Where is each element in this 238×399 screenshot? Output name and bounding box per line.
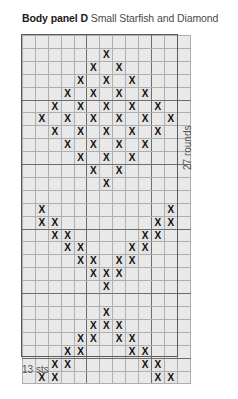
- stitch-mark: X: [152, 230, 164, 242]
- chart-cell: [177, 216, 190, 229]
- stitch-mark: X: [62, 139, 74, 151]
- chart-cell: X: [48, 229, 61, 242]
- stitch-mark: X: [126, 126, 138, 138]
- chart-cell: [74, 371, 87, 384]
- chart-cell: [61, 48, 74, 61]
- chart-cell: [126, 319, 139, 332]
- stitch-mark: X: [36, 204, 48, 216]
- chart-cell: [48, 242, 61, 255]
- chart-cell: X: [61, 139, 74, 152]
- chart-row: XX: [23, 165, 191, 178]
- chart-cell: X: [113, 268, 126, 281]
- chart-cell: [74, 165, 87, 178]
- chart-cell: X: [100, 268, 113, 281]
- stitch-mark: X: [49, 230, 61, 242]
- chart-cell: [164, 61, 177, 74]
- chart-cell: X: [126, 126, 139, 139]
- chart-cell: [126, 358, 139, 371]
- chart-cell: [164, 268, 177, 281]
- knitting-chart-card: Body panel D Small Starfish and Diamond …: [6, 4, 232, 389]
- chart-cell: [61, 268, 74, 281]
- chart-cell: [113, 216, 126, 229]
- chart-cell: X: [113, 319, 126, 332]
- chart-cell: [177, 358, 190, 371]
- chart-cell: [113, 371, 126, 384]
- chart-cell: [139, 190, 152, 203]
- chart-cell: X: [113, 255, 126, 268]
- stitch-mark: X: [75, 126, 87, 138]
- chart-cell: X: [126, 255, 139, 268]
- stitch-mark: X: [49, 372, 61, 384]
- chart-cell: [61, 177, 74, 190]
- chart-cell: [100, 36, 113, 49]
- chart-cell: [23, 319, 36, 332]
- chart-row: XXX: [23, 319, 191, 332]
- chart-cell: [23, 229, 36, 242]
- chart-cell: [151, 281, 164, 294]
- chart-row: XXXX: [23, 332, 191, 345]
- chart-cell: X: [87, 268, 100, 281]
- chart-cell: X: [126, 74, 139, 87]
- chart-cell: [177, 332, 190, 345]
- chart-cell: [87, 216, 100, 229]
- stitch-mark: X: [75, 333, 87, 345]
- stitch-mark: X: [113, 139, 125, 151]
- chart-cell: [23, 268, 36, 281]
- chart-cell: [151, 36, 164, 49]
- stitch-mark: X: [126, 255, 138, 267]
- chart-cell: [151, 74, 164, 87]
- chart-cell: [87, 190, 100, 203]
- chart-cell: [151, 61, 164, 74]
- chart-cell: [74, 319, 87, 332]
- chart-cell: X: [164, 203, 177, 216]
- chart-cell: X: [151, 216, 164, 229]
- chart-cell: [35, 281, 48, 294]
- chart-cell: [35, 61, 48, 74]
- chart-cell: [87, 152, 100, 165]
- chart-cell: [151, 165, 164, 178]
- chart-row: XX: [23, 203, 191, 216]
- chart-cell: [151, 268, 164, 281]
- chart-cell: X: [74, 345, 87, 358]
- stitch-mark: X: [113, 320, 125, 332]
- chart-row: XXXX: [23, 242, 191, 255]
- chart-cell: [23, 332, 36, 345]
- chart-cell: [113, 203, 126, 216]
- chart-cell: [48, 345, 61, 358]
- chart-cell: [61, 165, 74, 178]
- chart-cell: X: [87, 139, 100, 152]
- chart-row: XXX: [23, 268, 191, 281]
- chart-cell: X: [61, 358, 74, 371]
- stitch-mark: X: [113, 113, 125, 125]
- chart-cell: [74, 190, 87, 203]
- chart-cell: [87, 48, 100, 61]
- chart-cell: [113, 48, 126, 61]
- chart-cell: [139, 294, 152, 307]
- chart-cell: [48, 139, 61, 152]
- chart-row: X: [23, 306, 191, 319]
- chart-cell: [74, 36, 87, 49]
- chart-cell: X: [100, 281, 113, 294]
- chart-row: XXX: [23, 74, 191, 87]
- chart-cell: [48, 332, 61, 345]
- chart-cell: [87, 371, 100, 384]
- chart-cell: [177, 229, 190, 242]
- chart-cell: [35, 126, 48, 139]
- chart-row: XXX: [23, 152, 191, 165]
- chart-cell: [164, 152, 177, 165]
- chart-cell: [139, 203, 152, 216]
- chart-row: X: [23, 177, 191, 190]
- chart-cell: [74, 216, 87, 229]
- chart-cell: [74, 229, 87, 242]
- chart-cell: [100, 139, 113, 152]
- chart-cell: [177, 36, 190, 49]
- chart-cell: [177, 242, 190, 255]
- chart-cell: [100, 345, 113, 358]
- chart-cell: [74, 294, 87, 307]
- chart-cell: [177, 345, 190, 358]
- stitch-mark: X: [100, 307, 112, 319]
- chart-cell: [164, 165, 177, 178]
- chart-cell: [100, 165, 113, 178]
- chart-cell: [113, 281, 126, 294]
- chart-cell: [100, 113, 113, 126]
